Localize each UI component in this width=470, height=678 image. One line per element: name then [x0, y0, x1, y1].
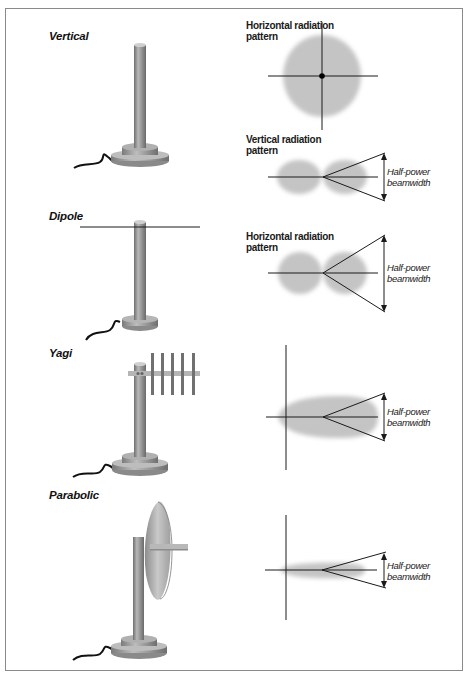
vertical-vertical-pattern — [268, 153, 387, 201]
parabolic-antenna-illustration — [73, 502, 188, 660]
beamwidth-line2: beamwidth — [387, 571, 430, 582]
beamwidth-label-parabolic: Half-power beamwidth — [387, 560, 430, 582]
beamwidth-line2: beamwidth — [387, 177, 430, 188]
antenna-title-vertical: Vertical — [49, 30, 89, 42]
beamwidth-line2: beamwidth — [387, 417, 430, 428]
antenna-title-parabolic: Parabolic — [49, 489, 99, 501]
pattern-label-line2: pattern — [246, 242, 334, 253]
antenna-title-dipole: Dipole — [49, 210, 83, 222]
pattern-label-line2: pattern — [246, 31, 334, 42]
pattern-label-horizontal-vertical: Horizontal radiation pattern — [246, 20, 334, 42]
pattern-label-horizontal-dipole: Horizontal radiation pattern — [246, 231, 334, 253]
pattern-label-line1: Horizontal radiation — [246, 20, 334, 31]
beamwidth-label-dipole: Half-power beamwidth — [387, 262, 430, 284]
yagi-antenna-illustration — [73, 353, 200, 477]
pattern-label-line2: pattern — [246, 145, 321, 156]
pattern-label-vertical-vertical: Vertical radiation pattern — [246, 134, 321, 156]
yagi-directional-pattern — [266, 345, 387, 470]
beamwidth-line1: Half-power — [387, 262, 430, 273]
beamwidth-label-yagi: Half-power beamwidth — [387, 406, 430, 428]
antenna-title-yagi: Yagi — [49, 347, 72, 359]
beamwidth-line1: Half-power — [387, 166, 430, 177]
beamwidth-label-vertical: Half-power beamwidth — [387, 166, 430, 188]
beamwidth-line1: Half-power — [387, 560, 430, 571]
pattern-label-line1: Vertical radiation — [246, 134, 321, 145]
dipole-antenna-illustration — [80, 220, 200, 340]
vertical-antenna-illustration — [74, 43, 169, 168]
beamwidth-line1: Half-power — [387, 406, 430, 417]
pattern-label-line1: Horizontal radiation — [246, 231, 334, 242]
beamwidth-line2: beamwidth — [387, 273, 430, 284]
parabolic-beam-pattern — [265, 515, 387, 620]
